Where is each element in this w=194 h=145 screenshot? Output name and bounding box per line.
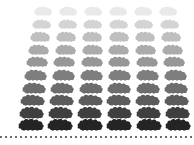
cloud-icon xyxy=(55,44,77,55)
cloud-icon xyxy=(83,19,103,29)
cloud-icon xyxy=(108,44,130,55)
cloud-icon xyxy=(84,6,103,16)
shape-row xyxy=(30,31,182,42)
cloud-icon xyxy=(52,69,76,81)
cloud-icon xyxy=(106,94,132,106)
shape-row xyxy=(20,94,190,106)
cloud-icon xyxy=(78,94,104,106)
cloud-icon xyxy=(160,19,180,29)
shape-row xyxy=(18,118,192,131)
cloud-icon xyxy=(163,56,186,67)
cloud-icon xyxy=(109,6,128,16)
cloud-icon xyxy=(136,118,163,131)
cloud-icon xyxy=(47,118,74,131)
cloud-icon xyxy=(136,82,161,94)
cloud-icon xyxy=(135,94,161,106)
cloud-icon xyxy=(28,44,50,55)
cloud-icon xyxy=(20,94,46,106)
cloud-icon xyxy=(109,19,129,29)
cloud-icon xyxy=(106,118,133,131)
cloud-icon xyxy=(164,94,190,106)
cloud-icon xyxy=(79,82,104,94)
cloud-icon xyxy=(162,44,184,55)
cloud-icon xyxy=(58,19,78,29)
cloud-icon xyxy=(59,6,78,16)
cloud-icon xyxy=(22,82,47,94)
cloud-icon xyxy=(80,69,104,81)
cloud-icon xyxy=(108,56,131,67)
cloud-icon xyxy=(82,31,103,42)
pictogram-canvas xyxy=(0,0,194,145)
cloud-icon xyxy=(164,69,188,81)
cloud-icon xyxy=(50,82,75,94)
cloud-icon xyxy=(109,31,130,42)
cloud-icon xyxy=(24,69,48,81)
cloud-shape-grid xyxy=(0,0,194,145)
cloud-icon xyxy=(159,6,178,16)
cloud-icon xyxy=(30,31,51,42)
cloud-icon xyxy=(77,118,104,131)
cloud-icon xyxy=(34,6,53,16)
shape-row xyxy=(22,82,189,94)
shape-row xyxy=(26,56,186,67)
cloud-icon xyxy=(56,31,77,42)
cloud-icon xyxy=(18,118,45,131)
cloud-icon xyxy=(81,56,104,67)
cloud-icon xyxy=(135,44,157,55)
shape-row xyxy=(34,6,178,16)
cloud-icon xyxy=(161,31,182,42)
cloud-icon xyxy=(135,31,156,42)
cloud-icon xyxy=(136,56,159,67)
shape-row xyxy=(32,19,180,29)
cloud-icon xyxy=(32,19,52,29)
cloud-icon xyxy=(136,69,160,81)
cloud-icon xyxy=(49,94,75,106)
shape-row xyxy=(28,44,184,55)
dotted-baseline xyxy=(0,136,194,138)
cloud-icon xyxy=(134,19,154,29)
cloud-icon xyxy=(165,118,192,131)
cloud-icon xyxy=(53,56,76,67)
shape-row xyxy=(24,69,188,81)
cloud-icon xyxy=(134,6,153,16)
cloud-icon xyxy=(164,82,189,94)
cloud-icon xyxy=(108,69,132,81)
cloud-icon xyxy=(26,56,49,67)
cloud-icon xyxy=(82,44,104,55)
cloud-icon xyxy=(107,82,132,94)
